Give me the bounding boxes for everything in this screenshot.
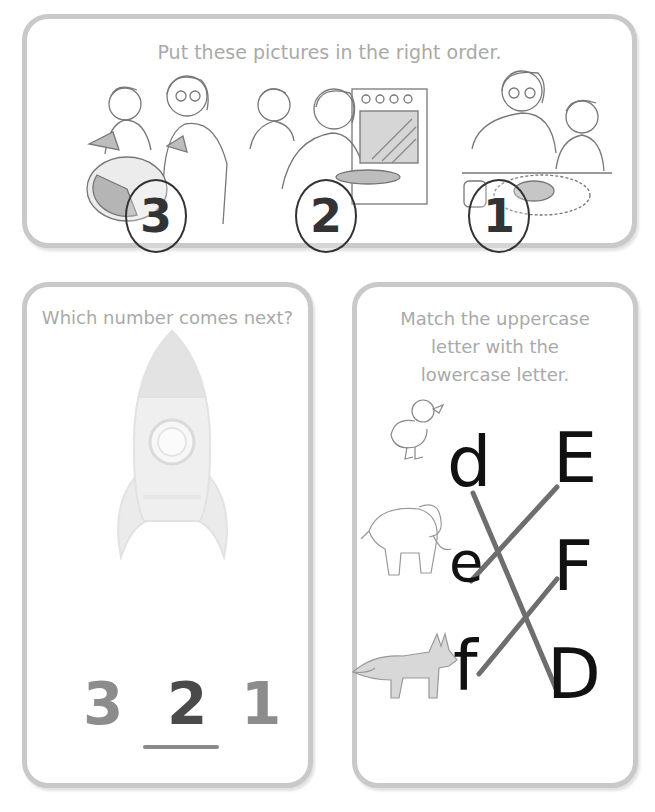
order-number-badge-3[interactable]: 3 xyxy=(125,179,187,253)
lowercase-letter-f[interactable]: f xyxy=(453,631,478,701)
sequence-number-3: 3 xyxy=(83,675,123,733)
sequence-answer-2[interactable]: 2 xyxy=(167,675,207,733)
uppercase-letter-F[interactable]: F xyxy=(553,531,593,601)
number-sequence-card: Which number comes next? 3 2 1 xyxy=(22,282,313,788)
uppercase-letter-E[interactable]: E xyxy=(553,423,597,493)
order-instructions: Put these pictures in the right order. xyxy=(27,39,632,65)
answer-blank-line xyxy=(143,745,219,749)
letter-match-card: Match the uppercase letter with the lowe… xyxy=(352,282,638,788)
sequence-number-1: 1 xyxy=(241,675,281,733)
order-number-badge-1[interactable]: 1 xyxy=(468,179,530,253)
match-lines xyxy=(357,287,643,793)
uppercase-letter-D[interactable]: D xyxy=(547,639,601,709)
order-number-badge-2[interactable]: 2 xyxy=(295,179,357,253)
lowercase-letter-e[interactable]: e xyxy=(449,527,483,597)
rocket-illustration xyxy=(105,327,240,567)
lowercase-letter-d[interactable]: d xyxy=(447,427,491,497)
picture-order-card: Put these pictures in the right order. xyxy=(22,14,637,248)
